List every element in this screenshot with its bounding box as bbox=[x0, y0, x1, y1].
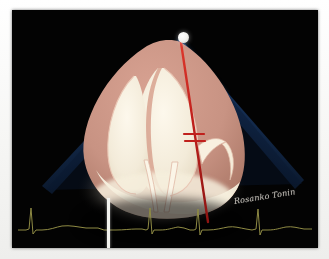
illustration-canvas: Rosanko Tonin bbox=[12, 10, 318, 248]
ecg-strip bbox=[12, 196, 318, 248]
illustration-plate: Rosanko Tonin bbox=[12, 10, 318, 248]
ecg-time-marker[interactable] bbox=[107, 198, 110, 248]
ecg-waveform bbox=[18, 208, 312, 235]
transducer-orientation-dot bbox=[178, 32, 189, 43]
figure-root: Rosanko Tonin Echocardiography apical fo… bbox=[0, 0, 329, 259]
ecg-trace bbox=[12, 196, 318, 248]
